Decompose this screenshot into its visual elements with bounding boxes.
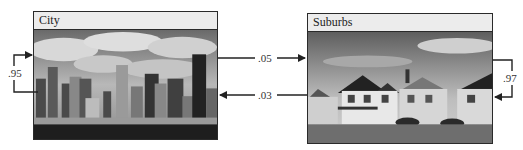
city-to-city-probability: .95 <box>8 67 22 79</box>
suburbs-to-suburbs-probability: .97 <box>503 72 517 84</box>
city-to-suburbs-probability: .05 <box>258 52 272 64</box>
suburbs-to-city-probability: .03 <box>258 89 272 101</box>
transition-arrows: .95 .05 .03 .97 <box>0 0 523 150</box>
